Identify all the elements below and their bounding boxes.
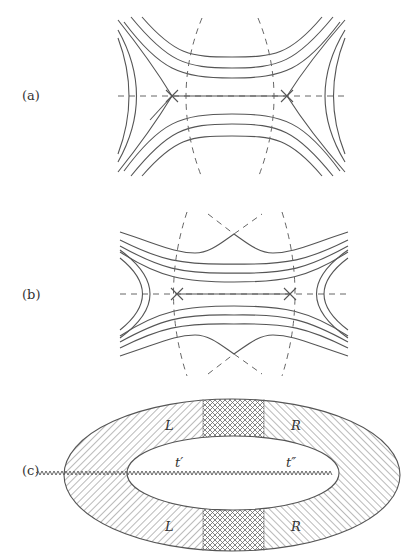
panel-b-diagram <box>120 212 348 376</box>
label-L-top: L <box>164 418 174 433</box>
figure-canvas: L R L R t′ t″ <box>0 0 410 557</box>
label-t-double-prime: t″ <box>286 455 296 470</box>
label-t-prime: t′ <box>175 455 183 470</box>
panel-a-diagram <box>118 17 345 178</box>
label-L-bottom: L <box>164 519 174 534</box>
label-R-bottom: R <box>290 519 301 534</box>
label-R-top: R <box>290 418 301 433</box>
panel-c-diagram: L R L R t′ t″ <box>36 395 405 555</box>
